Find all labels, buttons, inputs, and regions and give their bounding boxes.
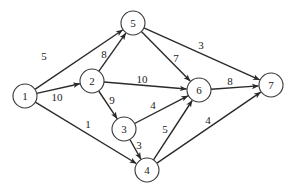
edge-weight-5-6: 7: [173, 52, 179, 64]
node-4: 4: [135, 158, 159, 182]
edge-weight-4-6: 5: [162, 123, 168, 135]
node-1: 1: [13, 84, 37, 108]
edge-weight-1-4: 1: [85, 118, 91, 130]
edge-5-to-6: [141, 32, 190, 82]
edge-1-to-5: [35, 30, 123, 89]
edge-weight-6-7: 8: [227, 75, 233, 87]
edge-weight-1-5: 5: [41, 50, 47, 62]
edge-weight-1-2: 10: [52, 91, 64, 103]
edge-weight-2-3: 9: [109, 94, 115, 106]
node-6: 6: [187, 78, 211, 102]
node-2: 2: [80, 69, 104, 93]
node-label: 2: [89, 75, 95, 87]
node-label: 5: [130, 17, 136, 29]
edge-4-to-6: [154, 101, 193, 160]
edge-6-to-7: [211, 86, 259, 89]
node-7: 7: [259, 73, 283, 97]
node-label: 3: [121, 123, 127, 135]
edge-weight-2-5: 8: [101, 48, 107, 60]
node-label: 7: [268, 79, 274, 91]
node-label: 6: [196, 84, 202, 96]
network-graph: 510181097384354 1234567: [0, 0, 293, 194]
edge-weight-3-6: 4: [150, 99, 156, 111]
node-label: 1: [22, 90, 28, 102]
node-3: 3: [112, 117, 136, 141]
node-5: 5: [121, 11, 145, 35]
edge-weight-3-4: 3: [136, 139, 142, 151]
edge-weight-2-6: 10: [137, 73, 149, 85]
edges-layer: [35, 28, 261, 164]
edge-4-to-7: [157, 92, 261, 163]
edge-weight-4-7: 4: [205, 114, 211, 126]
edge-weight-5-7: 3: [198, 39, 204, 51]
edge-5-to-7: [144, 28, 260, 80]
node-label: 4: [144, 164, 150, 176]
